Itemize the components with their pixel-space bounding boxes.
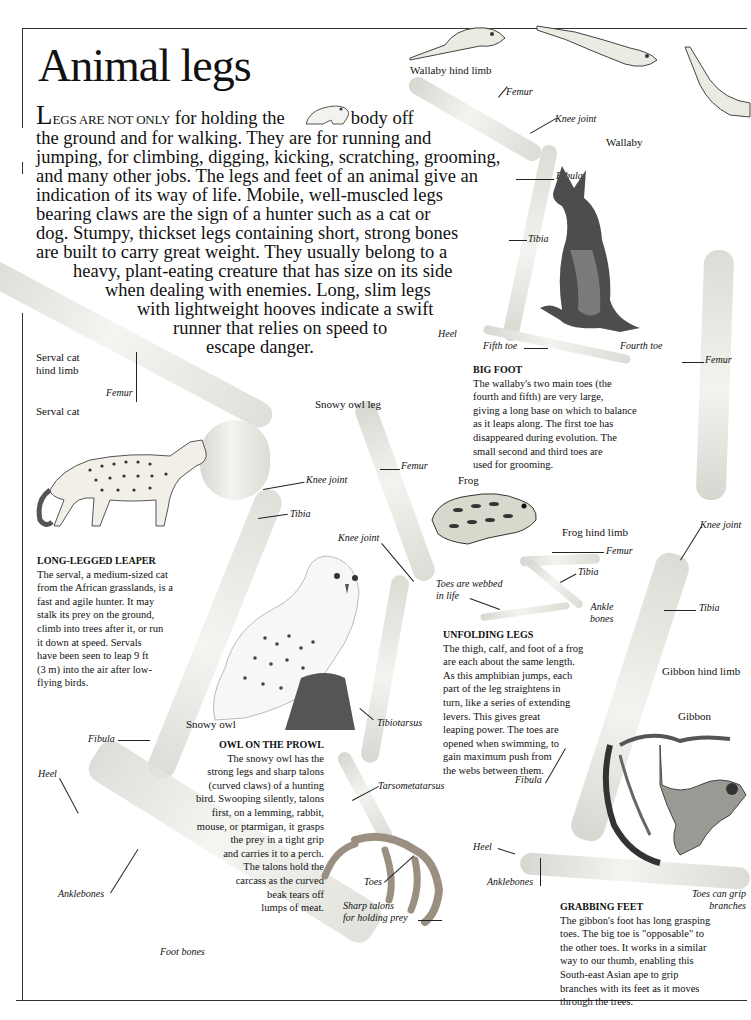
wallaby-heel-label: Heel	[438, 328, 457, 339]
frame-left-rule	[22, 162, 23, 174]
frog-tibia-bone	[526, 558, 585, 609]
wallaby-knee-label: Knee joint	[555, 113, 596, 124]
serval-femur-label: Femur	[106, 387, 133, 398]
frog-illustration	[428, 486, 548, 546]
frog-leaping-2-icon	[535, 18, 665, 73]
frog-leaping-1-icon	[400, 10, 510, 65]
wallaby-fourth-toe-label: Fourth toe	[620, 340, 663, 351]
snowy-owl-photo	[205, 548, 370, 730]
long-legged-leaper-textbox: LONG-LEGGED LEAPER The serval, a medium-…	[37, 554, 173, 690]
frog-tibia-label: Tibia	[578, 566, 599, 577]
serval-limb-caption: Serval cat hind limb	[36, 351, 80, 377]
frog-femur-label: Femur	[606, 545, 633, 556]
gibbon-fibula-label: Fibula	[515, 774, 542, 785]
serval-heel-label: Heel	[38, 768, 57, 779]
gibbon-caption: Gibbon	[678, 710, 711, 722]
snowy-owl-caption: Snowy owl	[186, 718, 236, 730]
serval-knee-label: Knee joint	[306, 474, 347, 485]
frame-left-rule	[22, 313, 23, 1000]
wallaby-fifth-toe-label: Fifth toe	[483, 340, 517, 351]
gibbon-tibia-label: Tibia	[699, 602, 720, 613]
page-title: Animal legs	[38, 40, 251, 92]
serval-anklebones-label: Anklebones	[58, 888, 104, 899]
gibbon-limb-caption: Gibbon hind limb	[662, 665, 740, 677]
serval-fibula-label: Fibula	[88, 733, 115, 744]
grabbing-feet-heading: GRABBING FEET	[560, 900, 710, 914]
frog-ankle-label: Ankle bones	[590, 601, 613, 625]
owl-limb-caption: Snowy owl leg	[315, 398, 381, 410]
frog-leaping-3-icon	[680, 45, 750, 125]
owl-knee-label: Knee joint	[338, 532, 379, 543]
gibbon-heel-label: Heel	[473, 841, 492, 852]
big-foot-textbox: BIG FOOT The wallaby's two main toes (th…	[473, 363, 637, 472]
drop-cap: L	[36, 100, 53, 130]
owl-on-the-prowl-heading: OWL ON THE PROWL	[166, 738, 324, 752]
owl-toes-label: Toes	[364, 876, 382, 887]
long-legged-leaper-heading: LONG-LEGGED LEAPER	[37, 554, 173, 568]
intro-paragraph: LEGS ARE NOT ONLY for holding thebody of…	[36, 106, 506, 357]
frame-left-rule	[22, 28, 23, 128]
wallaby-femur-label: Femur	[506, 86, 533, 97]
gibbon-illustration	[600, 725, 747, 865]
owl-talons-label: Sharp talons for holding prey	[343, 900, 408, 924]
gibbon-anklebones-label: Anklebones	[487, 876, 533, 887]
wallaby-limb-caption: Wallaby hind limb	[410, 64, 492, 76]
serval-caption: Serval cat	[36, 405, 80, 417]
big-foot-heading: BIG FOOT	[473, 363, 637, 377]
grabbing-feet-textbox: GRABBING FEET The gibbon's foot has long…	[560, 900, 710, 1009]
wallaby-photo	[540, 160, 660, 335]
frog-limb-caption: Frog hind limb	[562, 526, 628, 538]
gibbon-femur-bone	[696, 250, 735, 501]
frog-foot-bone	[480, 602, 570, 621]
gibbon-knee-label: Knee joint	[700, 519, 741, 530]
owl-femur-label: Femur	[401, 460, 428, 471]
gibbon-femur-label: Femur	[705, 354, 732, 365]
frog-caption: Frog	[458, 474, 479, 486]
owl-on-the-prowl-textbox: OWL ON THE PROWL The snowy owl has the s…	[166, 738, 324, 915]
frog-sitting-icon	[303, 102, 353, 128]
serval-cat-illustration	[30, 430, 215, 530]
wallaby-caption: Wallaby	[606, 136, 642, 148]
unfolding-legs-heading: UNFOLDING LEGS	[443, 628, 583, 642]
owl-tibiotarsus-label: Tibiotarsus	[377, 717, 422, 728]
owl-tarsometatarsus-label: Tarsometatarsus	[378, 780, 444, 791]
intro-smallcaps: EGS ARE NOT ONLY	[53, 112, 171, 127]
serval-foot-bones-label: Foot bones	[160, 946, 205, 957]
serval-tibia-label: Tibia	[290, 508, 311, 519]
